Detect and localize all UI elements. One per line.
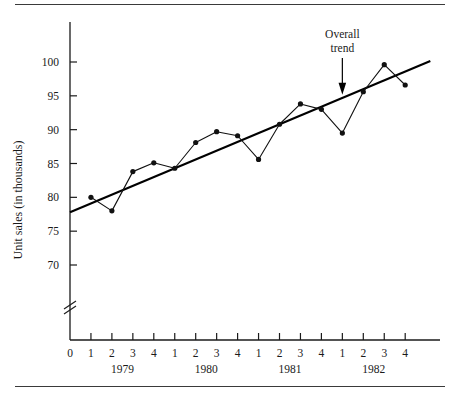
data-point (340, 130, 345, 135)
data-point (88, 195, 93, 200)
x-tick-label: 4 (151, 347, 157, 359)
y-tick-label: 75 (48, 225, 60, 237)
data-point (382, 62, 387, 67)
data-point (298, 101, 303, 106)
x-tick-label: 4 (235, 347, 241, 359)
x-origin-label: 0 (67, 347, 73, 359)
data-point (172, 166, 177, 171)
overall-trend-annotation: Overall trend (325, 28, 359, 95)
trend-line (70, 61, 430, 212)
x-tick-label: 1 (256, 347, 262, 359)
y-axis (70, 22, 77, 340)
data-point (109, 208, 114, 213)
y-tick-label: 80 (48, 191, 60, 203)
figure-container: Overall trend Unit sales (in thousands) … (0, 0, 458, 402)
x-tick-label: 4 (319, 347, 325, 359)
x-group-label: 1979 (111, 363, 134, 375)
x-axis-group-labels: 1979198019811982 (111, 363, 386, 375)
x-group-label: 1980 (195, 363, 218, 375)
x-tick-label: 1 (172, 347, 178, 359)
x-tick-label: 3 (214, 347, 220, 359)
x-group-label: 1981 (278, 363, 301, 375)
y-tick-label: 90 (48, 124, 60, 136)
annotation-label-line2: trend (331, 42, 355, 54)
x-tick-label: 3 (381, 347, 387, 359)
y-axis-title: Unit sales (in thousands) (11, 141, 25, 260)
data-point (214, 129, 219, 134)
x-tick-label: 1 (88, 347, 94, 359)
x-axis-tick-labels: 01234123412341234 (67, 347, 408, 359)
y-axis-tick-labels: 707580859095100 (42, 56, 60, 271)
data-point (130, 169, 135, 174)
x-tick-label: 2 (277, 347, 283, 359)
data-point (256, 157, 261, 162)
data-point (319, 107, 324, 112)
x-tick-label: 1 (339, 347, 345, 359)
x-tick-label: 4 (402, 347, 408, 359)
line-chart: Overall trend Unit sales (in thousands) … (0, 0, 458, 402)
x-tick-label: 2 (360, 347, 366, 359)
y-tick-label: 100 (42, 56, 60, 68)
annotation-label-line1: Overall (325, 28, 359, 40)
x-tick-label: 3 (130, 347, 136, 359)
data-point (277, 122, 282, 127)
x-group-label: 1982 (362, 363, 385, 375)
data-point (193, 140, 198, 145)
x-tick-label: 3 (298, 347, 304, 359)
x-axis (70, 333, 440, 340)
y-tick-label: 85 (48, 158, 60, 170)
data-point (361, 89, 366, 94)
data-point (151, 160, 156, 165)
annotation-arrow-head (339, 83, 347, 95)
x-tick-label: 2 (109, 347, 115, 359)
x-tick-label: 2 (193, 347, 199, 359)
data-point (235, 133, 240, 138)
y-tick-label: 70 (48, 259, 60, 271)
y-tick-label: 95 (48, 90, 60, 102)
data-point (403, 82, 408, 87)
